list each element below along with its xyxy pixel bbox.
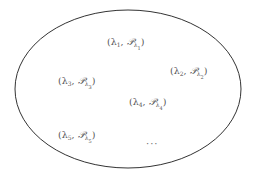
element-label-4: (λ4, 𝒫λ4) (129, 97, 166, 111)
element-label-1: (λ1, 𝒫λ1) (107, 37, 144, 51)
set-ellipse (0, 0, 256, 175)
element-label-5: (λ5, 𝒫λ5) (58, 130, 95, 144)
element-label-3: (λ3, 𝒫λ3) (58, 76, 95, 90)
ellipsis-continuation: ··· (146, 138, 159, 149)
diagram-canvas: (λ1, 𝒫λ1)(λ2, 𝒫λ2)(λ3, 𝒫λ3)(λ4, 𝒫λ4)(λ5,… (0, 0, 256, 175)
element-label-2: (λ2, 𝒫λ2) (170, 66, 207, 80)
